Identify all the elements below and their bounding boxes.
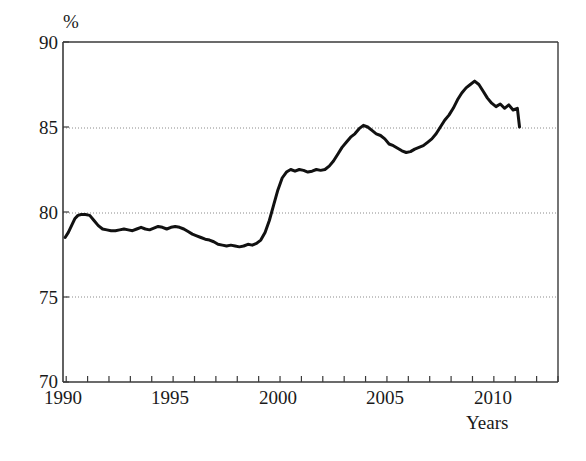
- y-tick-marks: [63, 42, 69, 382]
- data-series-line: [65, 81, 519, 247]
- x-tick-label-2000: 2000: [243, 388, 313, 408]
- gridlines: [63, 128, 558, 297]
- x-tick-label-2010: 2010: [458, 388, 528, 408]
- y-axis-unit-label: %: [63, 12, 79, 32]
- x-axis-title: Years: [466, 412, 508, 434]
- y-tick-label-85: 85: [10, 118, 58, 138]
- y-tick-label-75: 75: [10, 288, 58, 308]
- y-tick-label-90: 90: [10, 33, 58, 53]
- chart-figure: % 90 85 80 75 70 1990 1995 2000 2005 201…: [0, 0, 586, 461]
- x-tick-label-1995: 1995: [135, 388, 205, 408]
- x-tick-label-2005: 2005: [350, 388, 420, 408]
- x-tick-marks: [66, 376, 558, 382]
- x-tick-label-1990: 1990: [28, 388, 98, 408]
- y-tick-label-80: 80: [10, 203, 58, 223]
